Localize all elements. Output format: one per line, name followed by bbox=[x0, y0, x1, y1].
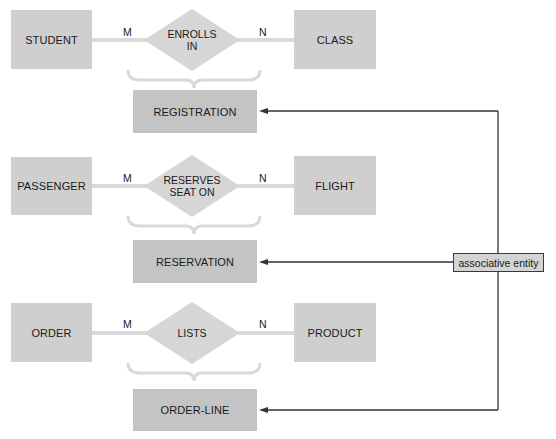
entity-label: PRODUCT bbox=[307, 327, 362, 339]
entity-label: FLIGHT bbox=[315, 180, 355, 192]
associative-entity-reservation: RESERVATION bbox=[133, 240, 257, 283]
brace-icon bbox=[128, 70, 260, 88]
entity-label: REGISTRATION bbox=[154, 106, 237, 118]
arrow-head-icon bbox=[259, 259, 268, 265]
associative-entity-registration: REGISTRATION bbox=[133, 90, 257, 133]
entity-student: STUDENT bbox=[11, 10, 92, 69]
callout-label: associative entity bbox=[459, 257, 539, 269]
cardinality-left: M bbox=[123, 172, 132, 184]
relationship-label-line: LISTS bbox=[177, 327, 206, 339]
entity-class: CLASS bbox=[294, 10, 376, 69]
relationship-label-line: RESERVES bbox=[164, 174, 221, 186]
entity-order: ORDER bbox=[11, 303, 92, 362]
entity-label: ORDER bbox=[31, 327, 71, 339]
associative-entity-order-line: ORDER-LINE bbox=[133, 389, 257, 431]
cardinality-right: N bbox=[259, 26, 267, 38]
entity-label: CLASS bbox=[317, 34, 354, 46]
relationship-enrolls-in: ENROLLS IN bbox=[152, 24, 232, 56]
relationship-reserves-seat-on: RESERVES SEAT ON bbox=[152, 170, 232, 202]
entity-product: PRODUCT bbox=[294, 303, 376, 362]
entity-label: PASSENGER bbox=[17, 180, 86, 192]
brace-icon bbox=[128, 363, 260, 381]
cardinality-left: M bbox=[123, 26, 132, 38]
arrow-head-icon bbox=[259, 108, 268, 114]
cardinality-right: N bbox=[259, 172, 267, 184]
entity-flight: FLIGHT bbox=[294, 156, 376, 215]
relationship-label-line: IN bbox=[187, 40, 198, 52]
cardinality-left: M bbox=[123, 318, 132, 330]
associative-entity-callout: associative entity bbox=[453, 253, 544, 272]
entity-passenger: PASSENGER bbox=[11, 157, 92, 215]
relationship-label-line: SEAT ON bbox=[169, 186, 214, 198]
relationship-label-line: ENROLLS bbox=[167, 28, 216, 40]
cardinality-right: N bbox=[259, 318, 267, 330]
entity-label: RESERVATION bbox=[156, 256, 234, 268]
entity-label: ORDER-LINE bbox=[161, 404, 230, 416]
entity-label: STUDENT bbox=[25, 34, 78, 46]
arrow-head-icon bbox=[259, 407, 268, 413]
relationship-lists: LISTS bbox=[152, 325, 232, 341]
brace-icon bbox=[128, 216, 260, 234]
